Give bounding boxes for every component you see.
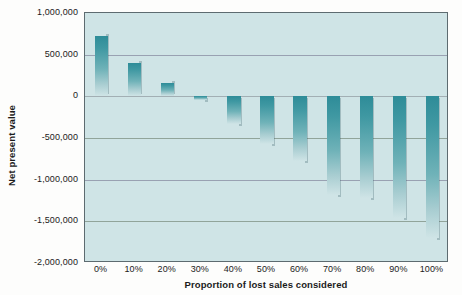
bar-30%[interactable] (194, 13, 207, 261)
bar-rect[interactable] (128, 63, 141, 96)
bar-90%[interactable] (393, 13, 406, 261)
bar-rect[interactable] (194, 96, 207, 100)
x-tick-label: 40% (224, 264, 242, 274)
bar-50%[interactable] (260, 13, 273, 261)
y-tick-label: -2,000,000 (34, 257, 78, 267)
bar-rect[interactable] (327, 96, 340, 194)
y-axis-title-text: Net present value (6, 105, 17, 186)
x-tick-label: 30% (191, 264, 209, 274)
bar-rect[interactable] (95, 36, 108, 97)
x-tick-label: 80% (356, 264, 374, 274)
y-tick-label: -500,000 (42, 132, 78, 142)
bar-rect[interactable] (227, 96, 240, 124)
bar-70%[interactable] (327, 13, 340, 261)
bar-20%[interactable] (161, 13, 174, 261)
bar-rect[interactable] (426, 96, 439, 238)
x-tick-label: 20% (158, 264, 176, 274)
bar-40%[interactable] (227, 13, 240, 261)
x-axis-tick-labels: 0%10%20%30%40%50%60%70%80%90%100% (84, 264, 448, 280)
bar-80%[interactable] (360, 13, 373, 261)
x-tick-label: 70% (323, 264, 341, 274)
bar-rect[interactable] (393, 96, 406, 218)
x-tick-label: 100% (420, 264, 443, 274)
y-axis-tick-labels: 1,000,000500,0000-500,000-1,000,000-1,50… (18, 0, 82, 295)
x-tick-label: 90% (389, 264, 407, 274)
bar-rect[interactable] (161, 83, 174, 96)
y-tick-label: 500,000 (45, 49, 78, 59)
y-tick-label: 1,000,000 (37, 7, 78, 17)
plot-area (84, 12, 448, 262)
bar-rect[interactable] (293, 96, 306, 161)
bar-0%[interactable] (95, 13, 108, 261)
x-tick-label: 10% (124, 264, 142, 274)
x-tick-label: 0% (94, 264, 107, 274)
x-tick-label: 50% (257, 264, 275, 274)
bar-chart: Net present value 1,000,000500,0000-500,… (0, 0, 462, 295)
bar-100%[interactable] (426, 13, 439, 261)
bar-rect[interactable] (260, 96, 273, 144)
bar-10%[interactable] (128, 13, 141, 261)
x-axis-title: Proportion of lost sales considered (84, 279, 448, 290)
y-tick-label: 0 (73, 90, 78, 100)
plot-inner (85, 13, 447, 261)
bar-rect[interactable] (360, 96, 373, 197)
x-tick-label: 60% (290, 264, 308, 274)
bar-60%[interactable] (293, 13, 306, 261)
y-tick-label: -1,000,000 (34, 174, 78, 184)
y-tick-label: -1,500,000 (34, 215, 78, 225)
